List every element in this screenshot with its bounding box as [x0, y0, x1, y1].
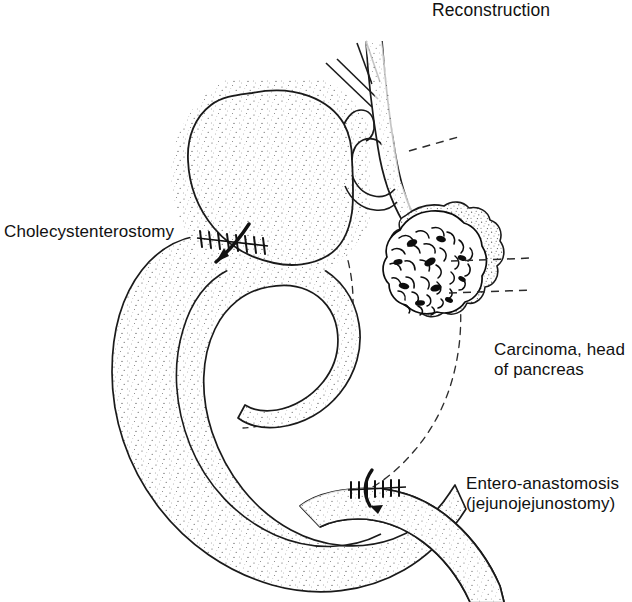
- label-entero-anastomosis: Entero-anastomosis (jejunojejunostomy): [466, 474, 619, 513]
- figure-page: Reconstruction Cholecystenterostomy Carc…: [0, 0, 632, 602]
- figure-title: Reconstruction: [432, 0, 550, 20]
- gallbladder: [170, 80, 370, 280]
- label-entero-line-1: Entero-anastomosis: [466, 474, 619, 494]
- label-cholecystenterostomy: Cholecystenterostomy: [4, 222, 174, 242]
- label-carcinoma-line-2: of pancreas: [494, 360, 625, 380]
- label-carcinoma: Carcinoma, head of pancreas: [494, 340, 625, 379]
- label-entero-line-2: (jejunojejunostomy): [466, 494, 619, 514]
- label-carcinoma-line-1: Carcinoma, head: [494, 340, 625, 360]
